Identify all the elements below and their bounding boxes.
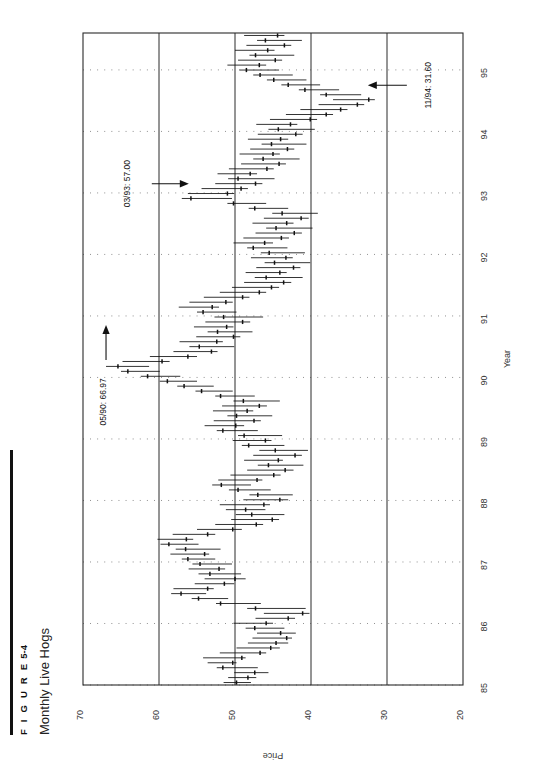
price-tick-30: 30: [379, 710, 389, 720]
year-tick-95: 95: [479, 68, 489, 78]
figure-root: F I G U R E5-4 Monthly Live Hogs 8586878…: [0, 0, 538, 779]
year-tick-94: 94: [479, 129, 489, 139]
annotation-arrowhead-right: [180, 180, 189, 188]
year-tick-88: 88: [479, 498, 489, 508]
year-tick-89: 89: [479, 437, 489, 447]
price-tick-40: 40: [303, 710, 313, 720]
year-tick-86: 86: [479, 621, 489, 631]
year-tick-90: 90: [479, 375, 489, 385]
annotation-label-low-1994: 11/94: 31.60: [423, 62, 433, 109]
price-tick-60: 60: [151, 710, 161, 720]
year-axis-label: Year: [502, 350, 512, 368]
plot-frame: [83, 33, 463, 685]
annotation-label-high-1990: 05/90: 66.97: [98, 378, 108, 426]
annotation-arrowhead-up: [102, 325, 109, 334]
price-tick-70: 70: [75, 710, 85, 720]
year-tick-87: 87: [479, 560, 489, 570]
price-tick-50: 50: [227, 710, 237, 720]
price-axis-label: Price: [263, 751, 284, 761]
year-tick-93: 93: [479, 191, 489, 201]
year-tick-91: 91: [479, 314, 489, 324]
year-tick-92: 92: [479, 252, 489, 262]
year-tick-85: 85: [479, 683, 489, 693]
annotation-label-mid-1993: 03/93: 57.00: [122, 160, 132, 208]
price-chart: 8586878889909192939495706050403020PriceY…: [0, 0, 538, 779]
price-tick-20: 20: [455, 710, 465, 720]
annotation-arrowhead-left: [368, 81, 377, 89]
